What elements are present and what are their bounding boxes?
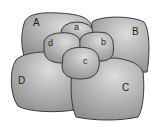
label-B: B — [132, 26, 139, 37]
cell-cluster-diagram: A B D C a d b c — [0, 0, 158, 127]
label-c: c — [83, 56, 88, 66]
label-b: b — [101, 37, 106, 47]
label-C: C — [122, 82, 129, 93]
label-a: a — [74, 22, 79, 32]
label-D: D — [18, 75, 25, 86]
label-A: A — [33, 17, 40, 28]
cell-c — [62, 47, 99, 79]
label-d: d — [48, 38, 53, 48]
